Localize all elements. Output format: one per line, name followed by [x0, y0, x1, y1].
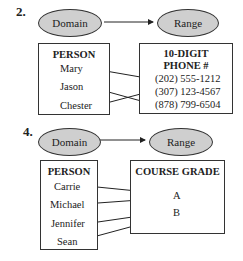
course-grade-box: COURSE GRADE A B [130, 160, 225, 234]
range-label: Range [174, 17, 202, 29]
problem-4-number: 4. [23, 124, 33, 140]
phone-header-line2: PHONE # [140, 60, 232, 72]
domain-item: Carrie [54, 181, 80, 192]
domain-ellipse: Domain [38, 9, 102, 37]
domain-label: Domain [52, 136, 87, 148]
problem-2-number: 2. [16, 4, 26, 20]
range-item: (202) 555-1212 [155, 73, 221, 84]
range-item: (307) 123-4567 [155, 86, 221, 97]
range-ellipse: Range [157, 9, 219, 37]
domain-item: Michael [50, 199, 84, 210]
domain-item: Chester [60, 100, 92, 111]
domain-item: Mary [60, 63, 83, 74]
phone-box: 10-DIGIT PHONE # (202) 555-1212 (307) 12… [139, 43, 233, 114]
person-box: PERSON Mary Jason Chester [38, 43, 110, 115]
range-label: Range [167, 136, 195, 148]
person-header: PERSON [41, 166, 97, 178]
range-item: (878) 799-6504 [155, 99, 221, 110]
domain-item: Jennifer [51, 218, 85, 229]
domain-ellipse: Domain [38, 128, 101, 156]
person-header: PERSON [39, 49, 109, 61]
range-item: B [173, 207, 180, 218]
range-ellipse: Range [149, 128, 213, 156]
domain-label: Domain [52, 17, 87, 29]
person-box: PERSON Carrie Michael Jennifer Sean [40, 160, 98, 250]
domain-item: Jason [60, 81, 83, 92]
range-item: A [173, 190, 181, 201]
course-grade-header: COURSE GRADE [131, 166, 224, 178]
domain-item: Sean [57, 236, 77, 247]
phone-header-line1: 10-DIGIT [140, 48, 232, 60]
